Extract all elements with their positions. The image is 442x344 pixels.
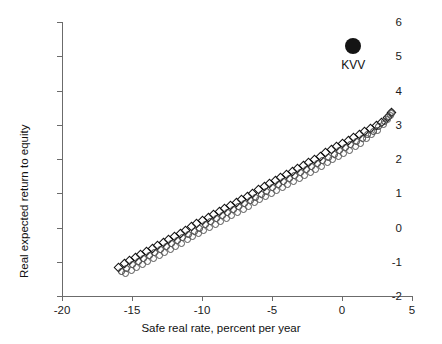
- x-tick-mark: [202, 296, 203, 301]
- x-tick-mark: [62, 296, 63, 301]
- y-tick-label: 5: [396, 50, 402, 62]
- x-axis-title: Safe real rate, percent per year: [0, 322, 442, 334]
- y-tick-mark: [57, 22, 62, 23]
- x-tick-label: 0: [339, 304, 345, 316]
- plot-area: -2-10123456 -20-15-10-505 KVV: [62, 22, 412, 296]
- y-tick-mark: [57, 91, 62, 92]
- y-tick-mark: [57, 159, 62, 160]
- x-tick-label: -10: [194, 304, 211, 316]
- kvv-point-marker: [345, 38, 361, 54]
- x-tick-label: 5: [409, 304, 415, 316]
- y-tick-mark: [57, 193, 62, 194]
- y-tick-label: 2: [396, 153, 402, 165]
- x-tick-mark: [412, 296, 413, 301]
- y-axis-title: Real expected return to equity: [18, 125, 30, 278]
- data-point: [388, 110, 395, 117]
- y-tick-label: -2: [392, 290, 402, 302]
- y-tick-label: 4: [396, 85, 402, 97]
- data-point: [374, 127, 381, 134]
- x-tick-label: -20: [54, 304, 71, 316]
- y-tick-mark: [57, 228, 62, 229]
- x-tick-mark: [132, 296, 133, 301]
- y-tick-mark: [57, 262, 62, 263]
- y-axis-line: [62, 22, 63, 296]
- y-tick-label: 3: [396, 119, 402, 131]
- scatter-chart-figure: Real expected return to equity -2-101234…: [0, 0, 442, 344]
- x-axis-line: [62, 296, 412, 297]
- y-axis-title-container: Real expected return to equity: [22, 28, 38, 278]
- x-tick-mark: [272, 296, 273, 301]
- y-tick-mark: [57, 125, 62, 126]
- x-tick-label: -5: [267, 304, 277, 316]
- y-tick-label: 0: [396, 222, 402, 234]
- x-tick-label: -15: [124, 304, 141, 316]
- y-tick-label: 6: [396, 16, 402, 28]
- y-tick-label: 1: [396, 187, 402, 199]
- kvv-point-label: KVV: [341, 58, 365, 72]
- y-tick-mark: [57, 56, 62, 57]
- x-tick-mark: [342, 296, 343, 301]
- y-tick-label: -1: [392, 256, 402, 268]
